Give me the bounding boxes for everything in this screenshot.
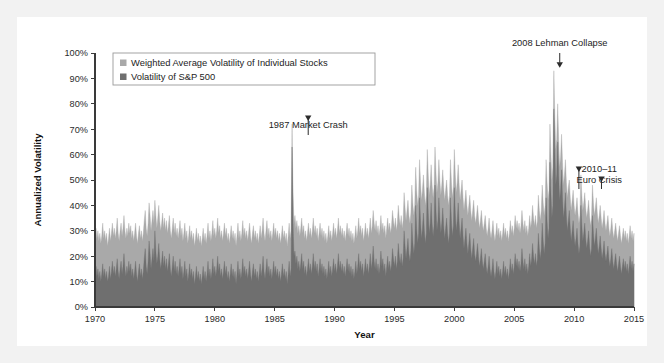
- chart-plot-area: 0%10%20%30%40%50%60%70%80%90%100%1970197…: [17, 17, 647, 346]
- y-tick-label: 100%: [65, 48, 89, 58]
- x-axis-title: Year: [354, 329, 375, 340]
- x-tick-label: 1995: [384, 314, 404, 324]
- chart-card: 0%10%20%30%40%50%60%70%80%90%100%1970197…: [17, 17, 647, 346]
- chart-legend: Weighted Average Volatility of Individua…: [113, 53, 375, 85]
- y-tick-label: 90%: [70, 74, 88, 84]
- y-tick-label: 0%: [75, 302, 88, 312]
- figure-background: 0%10%20%30%40%50%60%70%80%90%100%1970197…: [0, 0, 664, 363]
- y-tick-label: 80%: [70, 99, 88, 109]
- x-tick-label: 2015: [624, 314, 644, 324]
- annotation-2008-lehman-collapse-arrow-head: [557, 62, 563, 68]
- y-tick-label: 10%: [70, 277, 88, 287]
- series-layer: [95, 71, 634, 307]
- x-tick-label: 1990: [324, 314, 344, 324]
- legend-swatch-individual-stocks: [120, 60, 127, 67]
- y-axis-title: Annualized Volatility: [32, 133, 43, 227]
- x-tick-label: 1980: [205, 314, 225, 324]
- y-tick-label: 60%: [70, 150, 88, 160]
- x-tick-label: 2000: [444, 314, 464, 324]
- x-tick-label: 1970: [85, 314, 105, 324]
- y-tick-label: 50%: [70, 175, 88, 185]
- y-tick-label: 40%: [70, 201, 88, 211]
- x-tick-label: 2010: [564, 314, 584, 324]
- legend-swatch-sp500: [120, 74, 127, 81]
- y-tick-label: 70%: [70, 125, 88, 135]
- y-tick-label: 20%: [70, 252, 88, 262]
- x-tick-label: 1975: [145, 314, 165, 324]
- x-tick-label: 1985: [264, 314, 284, 324]
- volatility-area-chart: 0%10%20%30%40%50%60%70%80%90%100%1970197…: [17, 17, 647, 346]
- annotation-euro-crisis-label-line1: 2010–11: [582, 164, 618, 174]
- annotation-euro-crisis-label-line2: Euro Crisis: [577, 175, 623, 185]
- annotation-2008-lehman-collapse-label: 2008 Lehman Collapse: [512, 38, 608, 48]
- x-tick-label: 2005: [504, 314, 524, 324]
- y-tick-label: 30%: [70, 226, 88, 236]
- legend-label: Weighted Average Volatility of Individua…: [131, 57, 328, 68]
- legend-label: Volatility of S&P 500: [131, 71, 215, 82]
